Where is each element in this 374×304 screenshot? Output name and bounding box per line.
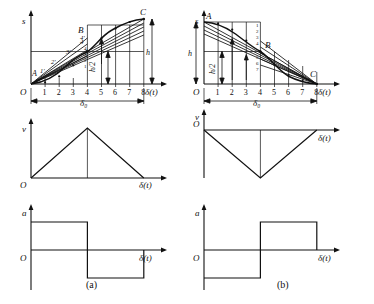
panel-a-stroke-dimension: [150, 19, 154, 84]
panel-b-division-label-6: 6: [256, 61, 259, 66]
panel-a-stroke-label: h: [146, 48, 150, 57]
panel-b-half-stroke-label: h/2: [208, 64, 217, 74]
panel-b-division-label-3: 3: [256, 35, 259, 40]
panel-a-velocity-origin-label: O: [20, 180, 27, 190]
panel-a-acceleration-time-label: δ(t): [139, 253, 152, 263]
panel-b-tick-5: 5: [272, 88, 276, 97]
panel-b-stroke-label: h: [188, 49, 192, 58]
panel-a-half-stroke-label: h/2: [88, 62, 97, 72]
panel-b-acceleration-chart: a O δ(t): [193, 204, 340, 290]
panel-b-division-label-1: 1: [256, 23, 259, 28]
panel-b-tick-7: 7: [300, 88, 304, 97]
panel-a-tick-2: 2: [57, 88, 61, 97]
panel-b-half-stroke-dimension: [220, 52, 224, 85]
panel-a-acceleration-chart: a O δ(t): [20, 204, 167, 290]
panel-a-division-label-4: 1: [84, 64, 87, 69]
panel-a-tick-3: 3: [71, 88, 75, 97]
panel-b-tick-6: 6: [286, 88, 290, 97]
panel-b-stroke-dimension: [194, 22, 198, 84]
panel-b-point-c-label: C: [310, 69, 317, 79]
panel-a-displacement-chart: s O δ(t) h h/2 δ₀ A B C 4 1' 2' 3' 4' 4 …: [20, 7, 167, 108]
panel-a-chord-label-4: 4': [80, 34, 85, 41]
panel-b-origin-label: O: [193, 87, 200, 97]
panel-a-chord-label-1: 1': [40, 67, 45, 74]
panel-a-acceleration-origin-label: O: [20, 253, 27, 263]
panel-b-division-label-7: 7: [256, 67, 259, 72]
panel-a-time-axis-label: δ(t): [145, 87, 158, 97]
panel-a-chord-label-3: 3': [65, 48, 71, 55]
panel-a-a-axis-label: a: [22, 208, 27, 218]
panel-a-half-stroke-dimension: [106, 52, 110, 85]
kinematic-diagram-figure: s O δ(t) h h/2 δ₀ A B C 4 1' 2' 3' 4' 4 …: [0, 0, 374, 304]
panel-b-tick-3: 3: [244, 88, 248, 97]
figure-svg: s O δ(t) h h/2 δ₀ A B C 4 1' 2' 3' 4' 4 …: [0, 0, 374, 304]
panel-b-tick-2: 2: [230, 88, 234, 97]
panel-a-angle-label: δ₀: [80, 98, 87, 108]
panel-a-v-axis-label: v: [22, 124, 26, 134]
panel-a-point-a-label: A: [31, 69, 37, 78]
panel-b-time-axis-label: δ(t): [318, 87, 331, 97]
panel-a-tick-5: 5: [99, 88, 103, 97]
panel-b-velocity-origin-label: O: [193, 119, 200, 129]
panel-b-a-axis-label: a: [195, 208, 200, 218]
panel-a-velocity-chart: v O δ(t): [20, 118, 167, 190]
panel-a-tick-7: 7: [127, 88, 131, 97]
panel-a-chord-label-2: 2': [51, 58, 56, 65]
panel-a-s-axis-label: s: [22, 16, 26, 26]
caption-a: (a): [86, 279, 97, 291]
panel-b-point-a-label: A: [205, 11, 212, 21]
panel-a-tick-4: 4: [85, 88, 89, 97]
panel-a-origin-label: O: [20, 87, 27, 97]
panel-b-angle-label: δ₀: [253, 98, 260, 108]
panel-b-tick-8: 8: [314, 88, 318, 97]
panel-b-tick-1: 1: [216, 88, 220, 97]
panel-b-s-axis-label: s: [195, 16, 199, 26]
panel-a-point-c-label: C: [140, 7, 147, 17]
panel-b-tick-4: 4: [258, 88, 262, 97]
panel-a-tick-8: 8: [141, 88, 145, 97]
panel-b-velocity-chart: v O δ(t): [193, 109, 340, 178]
panel-b-displacement-chart: s O δ(t) h h/2 δ₀ A B C 1 2 3 4 5 6 7 1 …: [188, 10, 340, 108]
panel-b-division-label-4: 4: [256, 41, 259, 46]
panel-b-acceleration-time-label: δ(t): [318, 253, 331, 263]
panel-a-division-label-3: 2: [84, 58, 87, 63]
panel-b-division-label-2: 2: [256, 29, 259, 34]
caption-b: (b): [277, 279, 289, 291]
panel-a-tick-6: 6: [113, 88, 117, 97]
panel-a-tick-1: 1: [43, 88, 47, 97]
panel-b-acceleration-origin-label: O: [193, 253, 200, 263]
panel-b-velocity-time-label: δ(t): [318, 133, 331, 143]
panel-a-velocity-time-label: δ(t): [139, 180, 152, 190]
panel-b-point-b-label: B: [265, 40, 271, 50]
